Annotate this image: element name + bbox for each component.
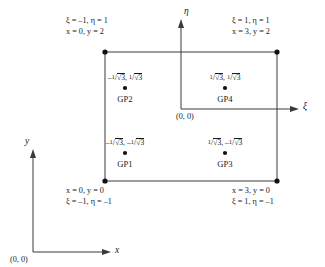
gauss-point-label-gp3: GP3 bbox=[195, 159, 255, 169]
corner-label-top-right-global: x = 3, y = 2 bbox=[232, 27, 270, 38]
gauss-point-coord-gp3: 1/√3, –1/√3 bbox=[193, 138, 257, 147]
natural-origin-label: (0, 0) bbox=[176, 112, 194, 121]
y-axis-label: y bbox=[25, 136, 29, 146]
gauss-point-coord-gp2: –1/√3, 1/√3 bbox=[95, 73, 155, 82]
corner-label-top-left-global: x = 0, y = 2 bbox=[66, 27, 108, 38]
x-axis-arrowhead bbox=[102, 249, 111, 255]
corner-label-bottom-left-natural: ξ = –1, η = –1 bbox=[66, 197, 112, 208]
eta-axis-arrowhead bbox=[178, 19, 184, 28]
gauss-point-coord-gp1: –1/√3, –1/√3 bbox=[93, 138, 157, 147]
node-dot-top-left bbox=[102, 49, 107, 54]
global-origin-label: (0, 0) bbox=[10, 255, 28, 264]
gauss-point-dot-gp1 bbox=[123, 151, 127, 155]
x-axis-label: x bbox=[115, 245, 119, 255]
gauss-point-label-gp2: GP2 bbox=[95, 94, 155, 104]
gauss-point-dot-gp2 bbox=[123, 86, 127, 90]
xi-axis-arrowhead bbox=[290, 106, 299, 112]
xi-axis-label: ξ bbox=[303, 101, 307, 111]
corner-label-bottom-left-global: x = 0, y = 0 bbox=[66, 186, 112, 197]
corner-label-bottom-right: x = 3, y = 0 ξ = 1, η = –1 bbox=[232, 186, 274, 207]
gauss-point-dot-gp4 bbox=[223, 86, 227, 90]
corner-label-top-right: ξ = 1, η = 1 x = 3, y = 2 bbox=[232, 16, 270, 37]
gauss-point-coord-gp4: 1/√3, 1/√3 bbox=[195, 73, 255, 82]
eta-axis-label: η bbox=[184, 6, 189, 16]
element-gauss-point-diagram: ξ = –1, η = 1 x = 0, y = 2 ξ = 1, η = 1 … bbox=[0, 0, 325, 267]
node-dot-bottom-right bbox=[274, 178, 279, 183]
node-dot-top-right bbox=[274, 49, 279, 54]
corner-label-top-left: ξ = –1, η = 1 x = 0, y = 2 bbox=[66, 16, 108, 37]
gauss-point-label-gp1: GP1 bbox=[95, 159, 155, 169]
corner-label-bottom-right-natural: ξ = 1, η = –1 bbox=[232, 197, 274, 208]
gauss-point-dot-gp3 bbox=[223, 151, 227, 155]
gauss-point-label-gp4: GP4 bbox=[195, 94, 255, 104]
diagram-vector-layer bbox=[0, 0, 325, 267]
corner-label-bottom-right-global: x = 3, y = 0 bbox=[232, 186, 274, 197]
corner-label-top-right-natural: ξ = 1, η = 1 bbox=[232, 16, 270, 27]
y-axis-arrowhead bbox=[30, 149, 36, 158]
node-dot-bottom-left bbox=[102, 178, 107, 183]
corner-label-bottom-left: x = 0, y = 0 ξ = –1, η = –1 bbox=[66, 186, 112, 207]
corner-label-top-left-natural: ξ = –1, η = 1 bbox=[66, 16, 108, 27]
